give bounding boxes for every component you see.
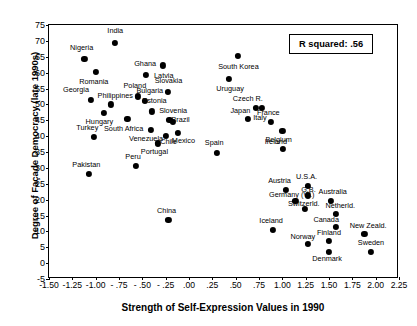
y-tick-label: 20	[15, 195, 45, 204]
point-label: Switzerld.	[288, 200, 320, 208]
y-tick-mark	[46, 120, 49, 121]
x-tick-mark	[236, 277, 237, 280]
point-label: Estonia	[142, 97, 166, 105]
x-tick-label: 1.75	[344, 281, 361, 290]
y-tick-label: 0	[15, 259, 45, 268]
point-label: Philippines	[98, 92, 133, 100]
y-tick-label: 10	[15, 227, 45, 236]
point-label: Brazil	[171, 116, 189, 124]
data-point	[108, 101, 114, 107]
point-label: Norway	[290, 233, 315, 241]
y-tick-label: 25	[15, 179, 45, 188]
data-point	[160, 62, 166, 68]
x-axis-title: Strength of Self-Expression Values in 19…	[48, 302, 398, 313]
point-label: Ireland	[265, 138, 287, 146]
point-label: Ghana	[134, 60, 156, 68]
data-point	[81, 56, 87, 62]
x-tick-mark	[142, 277, 143, 280]
point-label: Nigeria	[70, 44, 93, 52]
point-label: Turkey	[76, 124, 98, 132]
point-label: Spain	[205, 139, 224, 147]
y-tick-label: 35	[15, 148, 45, 157]
x-tick-mark	[119, 277, 120, 280]
point-label: Slovakia	[155, 77, 183, 85]
point-label: Denmark	[312, 255, 342, 263]
data-point	[234, 53, 240, 59]
y-tick-mark	[46, 89, 49, 90]
x-tick-mark	[399, 277, 400, 280]
x-tick-label: -1.25	[63, 281, 83, 290]
y-tick-label: 5	[15, 243, 45, 252]
data-point	[270, 227, 276, 233]
x-tick-label: .25	[206, 281, 218, 290]
x-tick-mark	[49, 277, 50, 280]
y-tick-mark	[46, 104, 49, 105]
point-label: Georgia	[63, 86, 89, 94]
y-tick-mark	[46, 231, 49, 232]
x-tick-mark	[72, 277, 73, 280]
point-label: Iceland	[259, 217, 283, 225]
point-label: Portugal	[141, 148, 168, 156]
x-tick-label: - .50	[134, 281, 151, 290]
data-point	[93, 69, 99, 75]
data-point	[326, 238, 332, 244]
x-tick-label: - .75	[110, 281, 127, 290]
data-point	[88, 97, 94, 103]
x-tick-label: -1.50	[39, 281, 59, 290]
data-point	[86, 171, 92, 177]
data-point	[245, 116, 251, 122]
data-point	[304, 241, 310, 247]
data-point	[368, 249, 374, 255]
x-tick-label: 2.25	[391, 281, 408, 290]
y-tick-label: 30	[15, 163, 45, 172]
y-tick-label: 50	[15, 100, 45, 109]
y-tick-mark	[46, 57, 49, 58]
y-tick-label: 40	[15, 132, 45, 141]
point-label: India	[107, 27, 123, 35]
point-label: U.S.A.	[296, 173, 317, 181]
y-tick-label: 70	[15, 36, 45, 45]
x-tick-mark	[352, 277, 353, 280]
data-point	[143, 72, 149, 78]
y-tick-label: 55	[15, 84, 45, 93]
point-label: Peru	[125, 153, 140, 161]
point-label: Australia	[319, 188, 347, 196]
x-tick-label: .75	[253, 281, 265, 290]
data-point	[361, 231, 367, 237]
data-point	[165, 217, 171, 223]
r-squared-annotation: R squared: .56	[289, 34, 373, 54]
point-label: Mexico	[172, 137, 195, 145]
y-tick-mark	[46, 184, 49, 185]
point-label: Pakistan	[72, 161, 100, 169]
point-label: Finland	[317, 229, 341, 237]
y-tick-mark	[46, 152, 49, 153]
y-tick-label: 60	[15, 68, 45, 77]
y-tick-mark	[46, 41, 49, 42]
x-tick-label: -1.00	[86, 281, 106, 290]
point-label: South Africa	[104, 125, 143, 133]
x-tick-label: .50	[230, 281, 242, 290]
data-point	[101, 110, 107, 116]
x-tick-mark	[96, 277, 97, 280]
point-label: Austria	[268, 177, 291, 185]
point-label: Uruguay	[216, 85, 244, 93]
point-label: Japan	[230, 107, 250, 115]
x-tick-label: 2.00	[367, 281, 384, 290]
x-tick-label: .00	[183, 281, 195, 290]
y-tick-mark	[46, 216, 49, 217]
point-label: Czech R.	[233, 95, 263, 103]
data-point	[149, 108, 155, 114]
point-label: France	[257, 109, 280, 117]
data-point	[112, 40, 118, 46]
x-tick-mark	[306, 277, 307, 280]
point-label: Germany (W.)	[269, 191, 314, 199]
x-tick-mark	[329, 277, 330, 280]
point-label: New Zeald.	[350, 222, 387, 230]
point-label: Sweden	[358, 239, 384, 247]
data-point	[124, 116, 130, 122]
x-tick-mark	[259, 277, 260, 280]
x-tick-mark	[376, 277, 377, 280]
y-tick-mark	[46, 25, 49, 26]
y-tick-label: 65	[15, 52, 45, 61]
scatter-plot-figure: Degree of Façade Democracy (late 1990s) …	[0, 0, 417, 326]
